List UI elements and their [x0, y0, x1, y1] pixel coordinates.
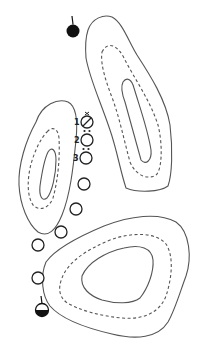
circle-icon [55, 226, 67, 238]
position-circle [32, 239, 44, 251]
position-circle [78, 178, 90, 190]
circle-icon [32, 272, 44, 284]
position-circle [55, 226, 67, 238]
background [0, 0, 200, 348]
dot-icon [82, 148, 84, 150]
circle-icon [81, 134, 93, 146]
route-diagram: 123 [0, 0, 200, 348]
position-circle [32, 272, 44, 284]
circle-icon [78, 178, 90, 190]
dot-icon [88, 130, 90, 132]
circle-icon [70, 203, 82, 215]
position-circle [70, 203, 82, 215]
dot-icon [83, 130, 85, 132]
position-label: 3 [73, 154, 79, 163]
circle-icon [32, 239, 44, 251]
position-label: 1 [74, 118, 80, 127]
position-label: 2 [74, 136, 80, 145]
circle-icon [80, 152, 92, 164]
filled-circle-icon [67, 25, 80, 38]
dot-icon [87, 148, 89, 150]
